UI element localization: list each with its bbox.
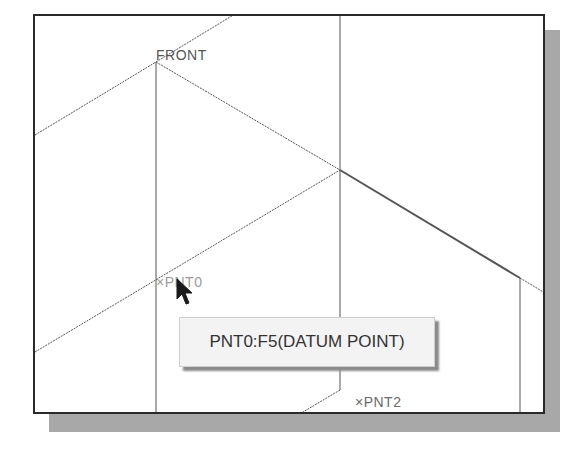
datum-edge-upper-right[interactable] (156, 62, 340, 170)
pick-tooltip: PNT0:F5(DATUM POINT) (179, 317, 435, 367)
mouse-pointer-icon (176, 278, 196, 308)
datum-edge-right-slope-end[interactable] (520, 278, 543, 293)
datum-edge-bottom[interactable] (303, 390, 340, 412)
datum-edge-right-slope[interactable] (340, 170, 520, 278)
datum-point-label-pnt2[interactable]: ×PNT2 (355, 395, 401, 409)
datum-plane-label-front[interactable]: FRONT (156, 48, 207, 62)
datum-edge-upper-left[interactable] (35, 62, 156, 135)
tooltip-text: PNT0:F5(DATUM POINT) (209, 332, 404, 352)
graphics-viewport[interactable]: FRONT ×PNT0 ×PNT2 PNT0:F5(DATUM POINT) (33, 14, 545, 414)
